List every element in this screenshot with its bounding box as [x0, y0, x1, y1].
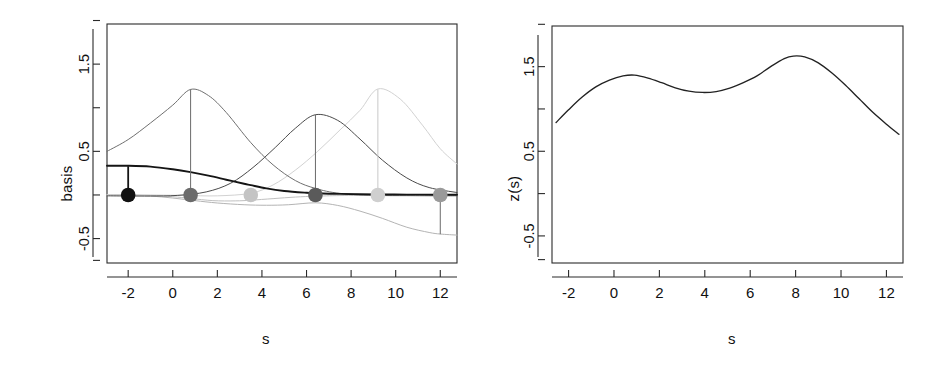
y-axis-label-basis: basis — [58, 122, 75, 202]
x-tick-label-5: 8 — [347, 284, 355, 301]
x-tick-label-7: 12 — [878, 284, 895, 301]
knot-point-3[interactable] — [243, 188, 258, 203]
knot-stick-group — [128, 89, 440, 234]
x-tick-label-0: -2 — [122, 284, 135, 301]
x-tick-label-2: 2 — [213, 284, 221, 301]
basis-curve-6 — [107, 195, 457, 235]
x-tick-label-7: 12 — [432, 284, 449, 301]
basis-panel: 1.50.5-0.5-2024681012 basis s — [0, 0, 469, 383]
y-tick-label-group-1: 0.5 — [521, 141, 537, 161]
knot-point-1[interactable] — [121, 188, 136, 203]
x-tick-label-2: 2 — [655, 284, 663, 301]
y-tick-label-group-2: -0.5 — [76, 226, 92, 251]
x-axis-label-basis: s — [262, 330, 270, 347]
x-tick-label-0: -2 — [562, 284, 575, 301]
basis-curve-group — [107, 89, 457, 235]
z-plot-canvas: 1.50.5-0.5-2024681012 — [469, 0, 938, 383]
x-tick-label-1: 0 — [610, 284, 618, 301]
y-tick-label-group-0: 1.5 — [76, 54, 92, 74]
knot-point-4[interactable] — [308, 188, 323, 203]
x-tick-label-1: 0 — [169, 284, 177, 301]
basis-curve-5 — [107, 89, 457, 196]
basis-curve-4 — [107, 114, 457, 196]
y-tick-label-1: 0.5 — [76, 141, 92, 161]
y-tick-label-group-1: 0.5 — [76, 141, 92, 161]
x-tick-label-4: 6 — [302, 284, 310, 301]
x-tick-label-3: 4 — [701, 284, 709, 301]
y-axis-label-z: z(s) — [505, 122, 522, 202]
y-tick-label-0: 1.5 — [521, 57, 537, 77]
x-tick-label-6: 10 — [387, 284, 404, 301]
figure-root: 1.50.5-0.5-2024681012 basis s 1.50.5-0.5… — [0, 0, 938, 383]
x-tick-label-4: 6 — [746, 284, 754, 301]
z-panel: 1.50.5-0.5-2024681012 z(s) s — [469, 0, 938, 383]
knot-point-6[interactable] — [433, 188, 448, 203]
x-axis-label-z: s — [728, 330, 736, 347]
y-tick-label-2: -0.5 — [521, 223, 537, 248]
y-tick-label-0: 1.5 — [76, 54, 92, 74]
z-curve — [556, 56, 899, 134]
knot-point-5[interactable] — [371, 188, 386, 203]
x-tick-label-5: 8 — [791, 284, 799, 301]
y-tick-label-2: -0.5 — [76, 226, 92, 251]
plot-box — [552, 26, 903, 263]
knot-point-2[interactable] — [183, 188, 198, 203]
y-tick-label-group-2: -0.5 — [521, 223, 537, 248]
y-tick-label-group-0: 1.5 — [521, 57, 537, 77]
x-tick-label-6: 10 — [833, 284, 850, 301]
plot-box — [107, 24, 457, 263]
y-tick-label-1: 0.5 — [521, 141, 537, 161]
x-tick-label-3: 4 — [258, 284, 266, 301]
